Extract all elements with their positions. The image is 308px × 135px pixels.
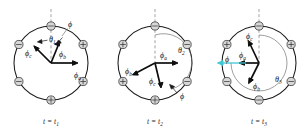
label-phi-c: ϕc — [25, 49, 32, 59]
slot-upper-right — [287, 40, 295, 48]
vector-phi-a — [51, 61, 78, 66]
slot-upper-left — [119, 40, 127, 48]
vector-phi-c — [34, 46, 51, 63]
label-phi-flux: ϕ — [180, 92, 184, 101]
label-phi-flux: ϕ — [225, 55, 229, 64]
slot-lower-left — [223, 77, 231, 85]
label-phi-b: ϕb — [125, 67, 132, 77]
slot-lower-right — [183, 77, 191, 85]
vector-phi-b — [249, 63, 259, 84]
slot-lower-left — [119, 77, 127, 85]
panel-caption: t = t2 — [147, 117, 163, 127]
panel-1: ϕa ϕb ϕc θ1 ϕ t = t1 — [14, 9, 88, 127]
slot-bottom — [151, 96, 159, 104]
label-phi-flux: ϕ — [68, 20, 72, 29]
label-phi-a: ϕa — [160, 51, 167, 61]
slot-bottom — [47, 96, 55, 104]
flux-direction-arrow — [62, 29, 68, 37]
panel-2: ϕa ϕb ϕc θ2 ϕ t = t2 — [118, 9, 192, 127]
slot-upper-right — [183, 40, 191, 48]
vector-phi-a — [155, 61, 178, 66]
slot-lower-left — [15, 77, 23, 85]
vector-phi-c — [155, 63, 163, 88]
label-phi-a: ϕa — [74, 71, 81, 81]
slot-lower-right — [287, 77, 295, 85]
diagram-canvas: ϕa ϕb ϕc θ1 ϕ t = t1 — [0, 0, 308, 135]
slot-upper-left — [15, 40, 23, 48]
vector-phi-c — [248, 40, 259, 63]
slot-bottom — [255, 96, 263, 104]
panel-3: ϕ ϕa ϕc ϕb θ3 t = t3 — [218, 9, 297, 127]
label-phi-c: ϕc — [149, 77, 156, 87]
label-phi-b: ϕb — [59, 50, 66, 60]
stator-field-figure: ϕa ϕb ϕc θ1 ϕ t = t1 — [0, 0, 308, 135]
slot-upper-left — [223, 40, 231, 48]
slot-top — [47, 22, 55, 30]
label-theta-1: θ1 — [49, 35, 56, 45]
flux-direction-arrow — [170, 84, 177, 93]
label-theta-3: θ3 — [275, 75, 282, 85]
label-phi-a: ϕa — [239, 51, 246, 61]
slot-top — [151, 22, 159, 30]
panel-caption: t = t3 — [251, 117, 267, 127]
slot-upper-right — [79, 40, 87, 48]
vector-phi-b — [132, 63, 155, 75]
label-phi-b: ϕb — [253, 82, 260, 92]
panel-caption: t = t1 — [43, 117, 59, 127]
label-phi-c: ϕc — [246, 32, 253, 42]
slot-top — [255, 22, 263, 30]
